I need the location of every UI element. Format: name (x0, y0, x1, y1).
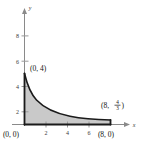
x-axis-label: x (132, 122, 136, 128)
annotation-point-8-0: (8, 0) (98, 130, 115, 139)
y-axis-label: y (28, 5, 32, 11)
coordinate-plane-chart: 2 4 6 8 2 4 6 x y (0, 4) (8, 0) (0, 0) (… (0, 0, 141, 146)
y-tick-label-2: 2 (16, 109, 19, 115)
x-tick-label-6: 6 (88, 130, 91, 136)
y-tick-label-8: 8 (16, 33, 19, 39)
annotation-origin: (0, 0) (3, 130, 20, 139)
x-tick-label-4: 4 (66, 130, 69, 136)
annotation-fraction-denominator: 3 (116, 105, 119, 111)
annotation-fraction-numerator: 4 (116, 99, 119, 105)
math-figure: 2 4 6 8 2 4 6 x y (0, 4) (8, 0) (0, 0) (… (0, 0, 141, 146)
annotation-point-0-4: (0, 4) (30, 64, 47, 73)
y-tick-label-6: 6 (16, 59, 19, 65)
x-tick-label-2: 2 (45, 130, 48, 136)
y-tick-label-4: 4 (16, 84, 19, 90)
annotation-fraction-prefix: (8, (101, 101, 109, 110)
